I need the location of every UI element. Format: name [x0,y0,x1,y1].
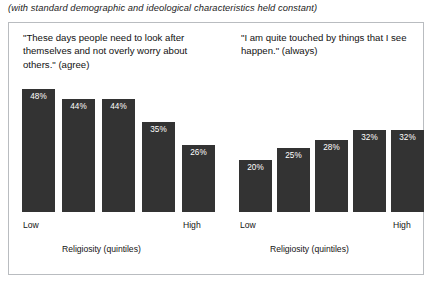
bar-value-label: 48% [22,92,55,101]
bar-value-label: 26% [182,148,215,157]
axis-tick-high: High [183,220,201,230]
figure-note: (with standard demographic and ideologic… [8,2,428,14]
x-axis-caption: Religiosity (quintiles) [62,244,141,254]
bar: 32% [391,130,424,212]
chart-right-plot: 20% 25% 28% 32% 32% Low [227,23,425,274]
chart-panel-frame: "These days people need to look after th… [8,22,424,275]
axis-tick-low: Low [23,220,39,230]
axis-tick-low: Low [240,220,256,230]
chart-left-plot: 48% 44% 44% 35% 26% Low [9,23,227,274]
bar-value-label: 35% [142,125,175,134]
chart-right: "I am quite touched by things that I see… [227,23,425,274]
x-axis-caption: Religiosity (quintiles) [270,244,349,254]
bar-value-label: 25% [277,151,310,160]
figure: (with standard demographic and ideologic… [0,0,434,283]
bar: 20% [239,160,272,212]
chart-left: "These days people need to look after th… [9,23,227,274]
bar-rect [62,99,95,212]
bar: 44% [102,99,135,212]
bar-rect [22,89,55,212]
bar: 26% [182,145,215,212]
bar: 48% [22,89,55,212]
bar: 44% [62,99,95,212]
bar-rect [142,122,175,212]
axis-tick-high: High [393,220,411,230]
bar-value-label: 32% [353,133,386,142]
bar: 35% [142,122,175,212]
bar-value-label: 44% [102,102,135,111]
bar-rect [353,130,386,212]
bar-value-label: 20% [239,163,272,172]
bar-value-label: 28% [315,143,348,152]
bar-rect [102,99,135,212]
bar-value-label: 44% [62,102,95,111]
bar: 32% [353,130,386,212]
bar-value-label: 32% [391,133,424,142]
bar-rect [391,130,424,212]
bar: 28% [315,140,348,212]
bar: 25% [277,148,310,212]
